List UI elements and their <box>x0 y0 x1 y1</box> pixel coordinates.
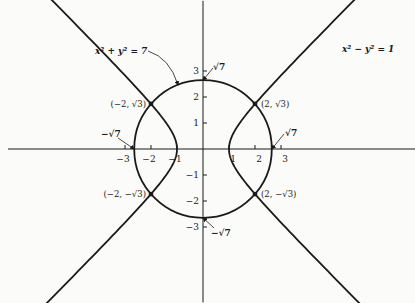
sqrt7-arrow <box>272 134 284 149</box>
x-tick-label: 2 <box>256 154 262 164</box>
labels: −3−2−1123321−1−2−3(−2, √3)(2, √3)(−2, −√… <box>94 44 394 238</box>
point-label: (2, −√3) <box>261 189 296 199</box>
sqrt7-arrow <box>203 68 213 80</box>
point-label: (−2, √3) <box>111 99 146 109</box>
y-tick-label: −1 <box>186 170 199 180</box>
point-label: (−2, −√3) <box>103 189 146 199</box>
plot-canvas: −3−2−1123321−1−2−3(−2, √3)(2, √3)(−2, −√… <box>0 0 415 303</box>
intersection-point <box>253 102 258 107</box>
sqrt7-arrow <box>203 218 214 228</box>
intersection-point <box>149 102 154 107</box>
sqrt7-arrow <box>118 138 134 149</box>
sqrt7-label: √7 <box>285 128 297 138</box>
x-tick-label: −1 <box>168 154 181 164</box>
y-tick-label: 3 <box>193 66 199 76</box>
x-tick-label: 1 <box>230 154 236 164</box>
y-tick-label: −3 <box>186 222 200 232</box>
y-tick-label: −2 <box>186 196 199 206</box>
x-tick-label: −2 <box>142 154 155 164</box>
sqrt7-label: √7 <box>213 62 225 72</box>
sqrt7-label: −√7 <box>211 228 231 238</box>
y-tick-label: 1 <box>193 118 199 128</box>
circle-label-arrow <box>148 51 178 85</box>
hyperbola-equation-label: x² − y² = 1 <box>341 44 394 54</box>
intersection-point <box>149 192 154 197</box>
point-label: (2, √3) <box>261 99 289 109</box>
intersection-point <box>253 192 258 197</box>
sqrt7-label: −√7 <box>101 129 121 139</box>
x-tick-label: 3 <box>282 154 288 164</box>
y-tick-label: 2 <box>193 92 199 102</box>
x-tick-label: −3 <box>116 154 130 164</box>
circle-equation-label: x² + y² = 7 <box>94 46 148 56</box>
